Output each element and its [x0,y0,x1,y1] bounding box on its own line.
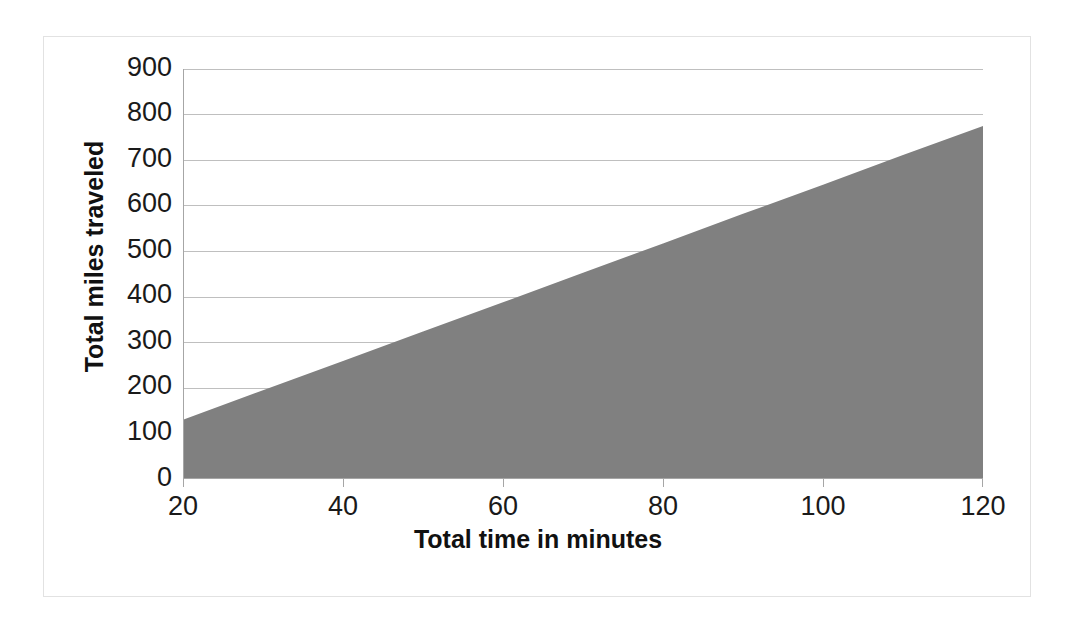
y-axis-title: Total miles traveled [80,97,109,417]
area-series-total-miles-traveled [183,126,983,479]
x-axis-ticks [184,479,983,487]
chart-svg [183,69,983,499]
chart-frame: 900 800 700 600 500 400 300 200 100 0 20… [43,36,1031,597]
x-axis-title: Total time in minutes [44,525,1032,554]
plot-area [183,69,983,479]
